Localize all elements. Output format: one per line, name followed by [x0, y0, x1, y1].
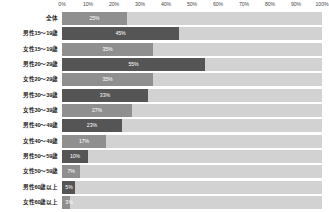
bar-value-label: 33%: [100, 89, 110, 102]
chart-row: 女性30～39歳27%: [0, 104, 329, 117]
chart-row: 男性50～59歳10%: [0, 150, 329, 163]
category-label: 男性50～59歳: [0, 150, 58, 163]
chart-row: 女性50～59歳7%: [0, 165, 329, 178]
bar-value-label: 35%: [102, 43, 112, 56]
bar-track: 45%: [62, 27, 322, 40]
x-axis-tick: 40%: [161, 1, 171, 7]
chart-row: 女性60歳以上3%: [0, 196, 329, 209]
bar-value-label: 25%: [89, 12, 99, 25]
x-axis-tick: 0%: [58, 1, 65, 7]
x-axis-tick: 80%: [265, 1, 275, 7]
bar-track: 25%: [62, 12, 322, 25]
chart-row: 女性15～19歳35%: [0, 43, 329, 56]
category-label: 男性60歳以上: [0, 181, 58, 194]
category-label: 男性40～49歳: [0, 119, 58, 132]
x-axis-tick: 20%: [109, 1, 119, 7]
bar-track: 27%: [62, 104, 322, 117]
chart-row: 男性20～29歳55%: [0, 58, 329, 71]
bar-value-label: 27%: [92, 104, 102, 117]
x-axis-tick: 60%: [213, 1, 223, 7]
x-axis-tick: 100%: [316, 1, 329, 7]
chart-row: 男性60歳以上5%: [0, 181, 329, 194]
bar-value-label: 7%: [67, 165, 74, 178]
bar-value-label: 3%: [65, 196, 72, 209]
x-axis-tick: 10%: [83, 1, 93, 7]
bar-value-label: 23%: [87, 119, 97, 132]
bar-track: 7%: [62, 165, 322, 178]
x-axis-tick: 30%: [135, 1, 145, 7]
category-label: 男性30～39歳: [0, 89, 58, 102]
chart-row: 女性40～49歳17%: [0, 135, 329, 148]
category-label: 男性20～29歳: [0, 58, 58, 71]
category-label: 男性15～19歳: [0, 27, 58, 40]
bar-value-label: 17%: [79, 135, 89, 148]
chart-row: 男性30～39歳33%: [0, 89, 329, 102]
bar-value-label: 55%: [128, 58, 138, 71]
chart-row: 全体25%: [0, 12, 329, 25]
bar-value-label: 5%: [65, 181, 72, 194]
chart-rows: 全体25%男性15～19歳45%女性15～19歳35%男性20～29歳55%女性…: [0, 12, 329, 211]
bar-value-label: 35%: [102, 73, 112, 86]
bar-track: 33%: [62, 89, 322, 102]
chart-row: 女性20～29歳35%: [0, 73, 329, 86]
bar-track: 55%: [62, 58, 322, 71]
category-label: 全体: [0, 12, 58, 25]
x-axis-tick: 50%: [187, 1, 197, 7]
bar-track: 10%: [62, 150, 322, 163]
chart-row: 男性40～49歳23%: [0, 119, 329, 132]
bar-track: 35%: [62, 73, 322, 86]
x-axis-tick-labels: 0%10%20%30%40%50%60%70%80%90%100%: [62, 0, 322, 12]
category-label: 女性40～49歳: [0, 135, 58, 148]
category-label: 女性15～19歳: [0, 43, 58, 56]
category-label: 女性60歳以上: [0, 196, 58, 209]
horizontal-bar-chart: 0%10%20%30%40%50%60%70%80%90%100% 全体25%男…: [0, 0, 329, 212]
bar-track: 23%: [62, 119, 322, 132]
x-axis-tick: 70%: [239, 1, 249, 7]
chart-row: 男性15～19歳45%: [0, 27, 329, 40]
x-axis-tick: 90%: [291, 1, 301, 7]
bar-value-label: 10%: [70, 150, 80, 163]
bar-track: 3%: [62, 196, 322, 209]
bar-track: 35%: [62, 43, 322, 56]
category-label: 女性20～29歳: [0, 73, 58, 86]
category-label: 女性30～39歳: [0, 104, 58, 117]
bar-track: 17%: [62, 135, 322, 148]
bar-value-label: 45%: [115, 27, 125, 40]
category-label: 女性50～59歳: [0, 165, 58, 178]
bar-track: 5%: [62, 181, 322, 194]
